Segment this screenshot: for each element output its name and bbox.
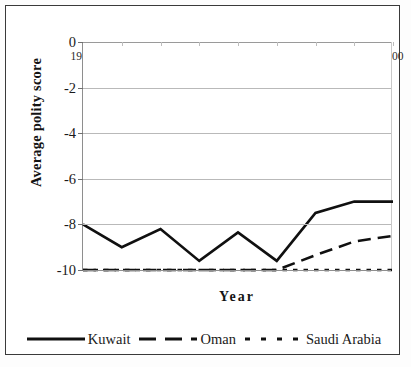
legend-swatch-solid [27, 333, 85, 345]
gridline-y [83, 133, 391, 134]
y-axis-tick-label: -8 [36, 217, 76, 231]
legend-item-oman: Oman [139, 331, 244, 347]
x-axis-tick [393, 42, 394, 46]
gridline-y [83, 88, 391, 89]
y-axis-tick [78, 42, 83, 43]
series-line-oman [83, 236, 393, 270]
y-axis-title: Average polity score [28, 33, 45, 213]
legend-label: Oman [197, 331, 244, 347]
gridline-y [83, 42, 391, 43]
x-axis-tick [161, 42, 162, 46]
x-axis-tick [354, 42, 355, 46]
series-line-kuwait [83, 202, 393, 261]
x-axis-tick [122, 42, 123, 46]
x-axis-tick [277, 42, 278, 46]
series-layer [83, 42, 393, 270]
legend-swatch-dashed [139, 333, 197, 345]
y-axis-tick [78, 179, 83, 180]
legend-label: Kuwait [85, 331, 140, 347]
figure-border: 0-2-4-6-8-10 196019651970197519801985199… [5, 5, 400, 355]
plot-area [82, 42, 392, 270]
y-axis-tick [78, 133, 83, 134]
chart-figure: 0-2-4-6-8-10 196019651970197519801985199… [0, 0, 411, 367]
y-axis-tick-label: -10 [36, 263, 76, 277]
y-axis-tick [78, 224, 83, 225]
gridline-y [83, 179, 391, 180]
x-axis-tick [316, 42, 317, 46]
legend-item-kuwait: Kuwait [27, 331, 140, 347]
legend-swatch-dotted [245, 333, 303, 345]
y-axis-tick [78, 270, 83, 271]
chart-legend: KuwaitOmanSaudi Arabia [12, 324, 405, 354]
legend-item-saudi-arabia: Saudi Arabia [245, 331, 390, 347]
legend-label: Saudi Arabia [303, 331, 390, 347]
gridline-y [83, 224, 391, 225]
x-axis-tick [199, 42, 200, 46]
gridline-y [83, 270, 391, 271]
x-axis-tick [238, 42, 239, 46]
x-axis-title: Year [82, 289, 392, 305]
y-axis-tick [78, 88, 83, 89]
